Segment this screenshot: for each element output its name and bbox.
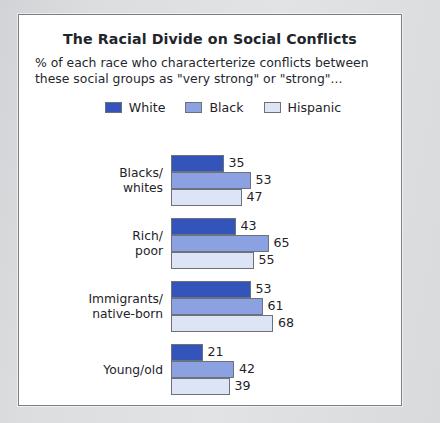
bar-row: 65: [171, 235, 397, 252]
bar-value-label: 35: [229, 157, 245, 170]
bar-white: [171, 155, 224, 172]
legend-swatch-icon: [105, 102, 122, 113]
bar-value-label: 39: [235, 380, 251, 393]
chart-legend: WhiteBlackHispanic: [19, 100, 401, 115]
bar-group-label: Immigrants/ native-born: [33, 292, 163, 322]
bar-row: 42: [171, 361, 397, 378]
chart-card-inner: The Racial Divide on Social Conflicts % …: [19, 31, 401, 421]
bar-black: [171, 172, 251, 189]
bar-value-label: 47: [247, 191, 263, 204]
bar-row: 53: [171, 172, 397, 189]
bar-group-bars: 536168: [171, 281, 397, 332]
bar-group-bars: 214239: [171, 344, 397, 395]
bar-hispanic: [171, 252, 254, 269]
bar-value-label: 21: [208, 346, 224, 359]
bar-group-label: Young/old: [33, 362, 163, 377]
bar-value-label: 42: [239, 363, 255, 376]
bar-row: 47: [171, 189, 397, 206]
bar-black: [171, 235, 269, 252]
legend-item-white: White: [105, 100, 166, 115]
chart-subtitle: % of each race who characterterize confl…: [35, 55, 385, 87]
bar-value-label: 68: [278, 317, 294, 330]
bar-row: 39: [171, 378, 397, 395]
legend-item-label: White: [129, 100, 166, 115]
bar-white: [171, 344, 203, 361]
bar-hispanic: [171, 315, 273, 332]
bar-value-label: 43: [241, 220, 257, 233]
bar-row: 35: [171, 155, 397, 172]
bar-group: Blacks/ whites355347: [19, 149, 401, 212]
bar-value-label: 65: [274, 237, 290, 250]
bar-row: 43: [171, 218, 397, 235]
bar-value-label: 53: [256, 283, 272, 296]
bar-row: 68: [171, 315, 397, 332]
legend-swatch-icon: [264, 102, 281, 113]
bar-white: [171, 218, 236, 235]
bar-value-label: 55: [259, 254, 275, 267]
bar-group-label: Rich/ poor: [33, 229, 163, 259]
bar-hispanic: [171, 378, 230, 395]
bar-group: Rich/ poor436555: [19, 212, 401, 275]
bar-group-bars: 355347: [171, 155, 397, 206]
bar-row: 61: [171, 298, 397, 315]
bar-value-label: 53: [256, 174, 272, 187]
chart-plot-area: Blacks/ whites355347Rich/ poor436555Immi…: [19, 149, 401, 401]
bar-group-bars: 436555: [171, 218, 397, 269]
legend-item-label: Black: [209, 100, 243, 115]
legend-item-black: Black: [185, 100, 243, 115]
bar-black: [171, 361, 234, 378]
chart-card: The Racial Divide on Social Conflicts % …: [18, 14, 402, 406]
bar-row: 53: [171, 281, 397, 298]
bar-group: Young/old214239: [19, 338, 401, 401]
chart-title: The Racial Divide on Social Conflicts: [29, 31, 391, 47]
bar-group-label: Blacks/ whites: [33, 166, 163, 196]
bar-black: [171, 298, 263, 315]
bar-white: [171, 281, 251, 298]
bar-row: 21: [171, 344, 397, 361]
bar-group: Immigrants/ native-born536168: [19, 275, 401, 338]
bar-value-label: 61: [268, 300, 284, 313]
legend-swatch-icon: [185, 102, 202, 113]
bar-hispanic: [171, 189, 242, 206]
bar-row: 55: [171, 252, 397, 269]
legend-item-hispanic: Hispanic: [264, 100, 342, 115]
legend-item-label: Hispanic: [288, 100, 342, 115]
